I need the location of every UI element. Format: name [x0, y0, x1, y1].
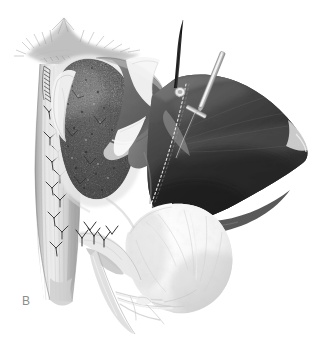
suture-thread-loop	[175, 88, 185, 98]
surgical-illustration-figure: B	[0, 0, 324, 346]
surgical-illustration-canvas	[0, 0, 324, 346]
panel-label: B	[22, 295, 31, 307]
